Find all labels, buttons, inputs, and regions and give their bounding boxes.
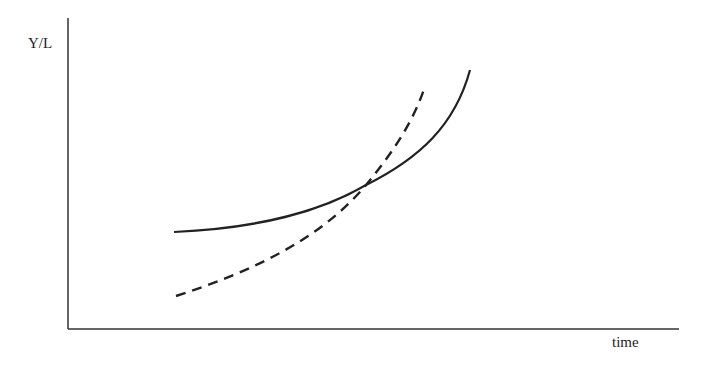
y-axis-label: Y/L [28, 35, 52, 52]
dashed-curve [176, 86, 425, 296]
solid-curve [174, 70, 470, 232]
x-axis-label: time [612, 334, 639, 351]
diagram-canvas [0, 0, 701, 367]
